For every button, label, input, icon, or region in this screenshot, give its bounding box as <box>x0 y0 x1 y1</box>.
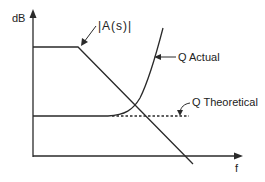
diagram-canvas <box>0 0 265 182</box>
gain-label: |A(s)| <box>98 20 132 32</box>
gain-pointer-arrow-icon <box>81 38 88 46</box>
gain-pointer <box>84 26 96 42</box>
x-axis-label: f <box>235 163 238 174</box>
gain-curve <box>33 47 193 164</box>
q-actual-label: Q Actual <box>178 52 220 63</box>
q-theoretical-label: Q Theoretical <box>192 97 258 108</box>
q-actual-curve <box>33 28 163 116</box>
y-axis-arrow-icon <box>30 9 37 18</box>
x-axis-arrow-icon <box>234 153 243 160</box>
y-axis-label: dB <box>12 13 25 24</box>
q-theoretical-pointer-arrow-icon <box>177 110 183 116</box>
